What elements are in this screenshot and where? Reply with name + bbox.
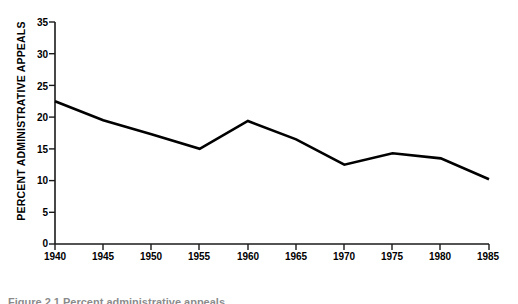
x-axis-tick-labels: 1940 1945 1950 1955 1960 1965 1970 1975 …: [0, 0, 518, 304]
x-tick-label: 1975: [370, 252, 414, 262]
figure-caption: Figure 2.1 Percent administrative appeal…: [8, 296, 448, 304]
figure-panel: PERCENT ADMINISTRATIVE APPEALS 35 30 25 …: [0, 0, 518, 304]
x-tick-label: 1970: [322, 252, 366, 262]
x-tick-label: 1945: [81, 252, 125, 262]
x-tick-label: 1980: [418, 252, 462, 262]
x-tick-label: 1955: [177, 252, 221, 262]
x-tick-label: 1985: [466, 252, 510, 262]
x-tick-label: 1940: [33, 252, 77, 262]
x-tick-label: 1965: [274, 252, 318, 262]
x-tick-label: 1960: [226, 252, 270, 262]
x-tick-label: 1950: [129, 252, 173, 262]
